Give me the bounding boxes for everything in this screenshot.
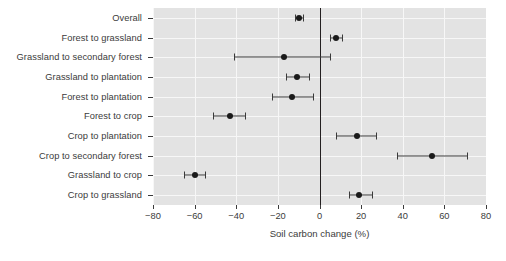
category-label: Grassland to crop — [68, 170, 142, 180]
error-bar-cap-low — [234, 54, 235, 61]
error-bar-cap-low — [349, 192, 350, 199]
category-label: Crop to secondary forest — [39, 151, 142, 161]
x-axis-title: Soil carbon change (%) — [153, 228, 486, 239]
data-row[interactable] — [153, 107, 486, 125]
x-axis-tick — [236, 205, 237, 209]
forest-plot-chart: OverallForest to grasslandGrassland to s… — [0, 0, 506, 261]
data-row[interactable] — [153, 48, 486, 66]
data-row[interactable] — [153, 29, 486, 47]
x-axis-tick — [403, 205, 404, 209]
error-bar-cap-high — [205, 172, 206, 179]
data-point-marker[interactable] — [192, 172, 198, 178]
x-axis-tick-label: −80 — [145, 211, 161, 221]
data-point-marker[interactable] — [429, 153, 435, 159]
category-label: Forest to plantation — [61, 92, 142, 102]
error-bar-cap-low — [336, 133, 337, 140]
data-row[interactable] — [153, 186, 486, 204]
data-point-marker[interactable] — [333, 35, 339, 41]
error-bar-cap-low — [272, 93, 273, 100]
category-label: Grassland to plantation — [45, 72, 142, 82]
x-axis-tick-label: −60 — [187, 211, 203, 221]
category-label: Grassland to secondary forest — [17, 52, 142, 62]
plot-area — [153, 8, 486, 205]
data-row[interactable] — [153, 147, 486, 165]
x-axis-tick-label: 20 — [356, 211, 366, 221]
error-bar-cap-high — [376, 133, 377, 140]
category-axis: OverallForest to grasslandGrassland to s… — [0, 8, 150, 205]
data-row[interactable] — [153, 68, 486, 86]
x-axis-tick — [361, 205, 362, 209]
x-axis-tick — [486, 205, 487, 209]
x-axis-tick-label: 80 — [481, 211, 491, 221]
error-bar-cap-high — [372, 192, 373, 199]
category-label: Forest to grassland — [61, 33, 142, 43]
data-point-marker[interactable] — [294, 74, 300, 80]
data-point-marker[interactable] — [356, 192, 362, 198]
data-row[interactable] — [153, 88, 486, 106]
x-axis-tick — [278, 205, 279, 209]
error-bar-cap-high — [303, 14, 304, 21]
data-row[interactable] — [153, 127, 486, 145]
x-axis-tick-label: 60 — [439, 211, 449, 221]
data-point-marker[interactable] — [289, 94, 295, 100]
data-point-marker[interactable] — [227, 113, 233, 119]
x-axis-tick-label: 40 — [398, 211, 408, 221]
error-bar-cap-high — [245, 113, 246, 120]
data-point-marker[interactable] — [281, 54, 287, 60]
category-label: Overall — [112, 13, 142, 23]
category-label: Crop to grassland — [68, 190, 142, 200]
category-label: Forest to crop — [84, 111, 142, 121]
x-axis-tick — [320, 205, 321, 209]
x-axis-tick-label: −40 — [228, 211, 244, 221]
x-axis-tick — [153, 205, 154, 209]
error-bar-cap-high — [309, 73, 310, 80]
data-row[interactable] — [153, 166, 486, 184]
error-bar-cap-low — [184, 172, 185, 179]
data-point-marker[interactable] — [354, 133, 360, 139]
category-label: Crop to plantation — [68, 131, 142, 141]
data-row[interactable] — [153, 9, 486, 27]
error-bar-cap-high — [330, 54, 331, 61]
error-bar-cap-low — [397, 152, 398, 159]
x-axis-tick-label: −20 — [270, 211, 286, 221]
x-axis-tick-label: 0 — [317, 211, 322, 221]
error-bar-cap-low — [286, 73, 287, 80]
error-bar-cap-low — [330, 34, 331, 41]
x-axis-tick — [195, 205, 196, 209]
data-point-marker[interactable] — [296, 15, 302, 21]
error-bar-cap-high — [467, 152, 468, 159]
error-bar-cap-high — [342, 34, 343, 41]
error-bar-cap-low — [213, 113, 214, 120]
error-bar-cap-high — [313, 93, 314, 100]
x-axis-tick — [444, 205, 445, 209]
